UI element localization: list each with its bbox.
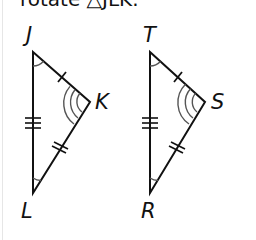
vertex-label-j: J [22, 23, 32, 47]
vertex-label-k: K [95, 90, 111, 114]
vertex-label-l: L [21, 199, 33, 223]
angle-arc-k-1 [77, 93, 82, 112]
triangle-jkl-outline [33, 52, 90, 193]
angle-arcs-tsr [150, 62, 197, 181]
angle-arc-k-3 [64, 86, 74, 124]
angle-arc-s-3 [178, 84, 189, 124]
angle-arc-s-1 [192, 93, 197, 112]
congruent-triangles-figure: J K L T S R [0, 0, 256, 240]
triangle-tsr [142, 52, 205, 193]
angle-arc-r [150, 178, 158, 181]
vertex-label-r: R [141, 199, 156, 223]
angle-arc-j [33, 61, 44, 66]
angle-arcs-jkl [33, 61, 82, 180]
angle-arc-t [150, 62, 160, 67]
triangle-tsr-outline [150, 52, 205, 193]
vertex-label-t: T [143, 23, 158, 47]
vertex-label-s: S [211, 90, 224, 114]
triangle-jkl [25, 52, 90, 193]
